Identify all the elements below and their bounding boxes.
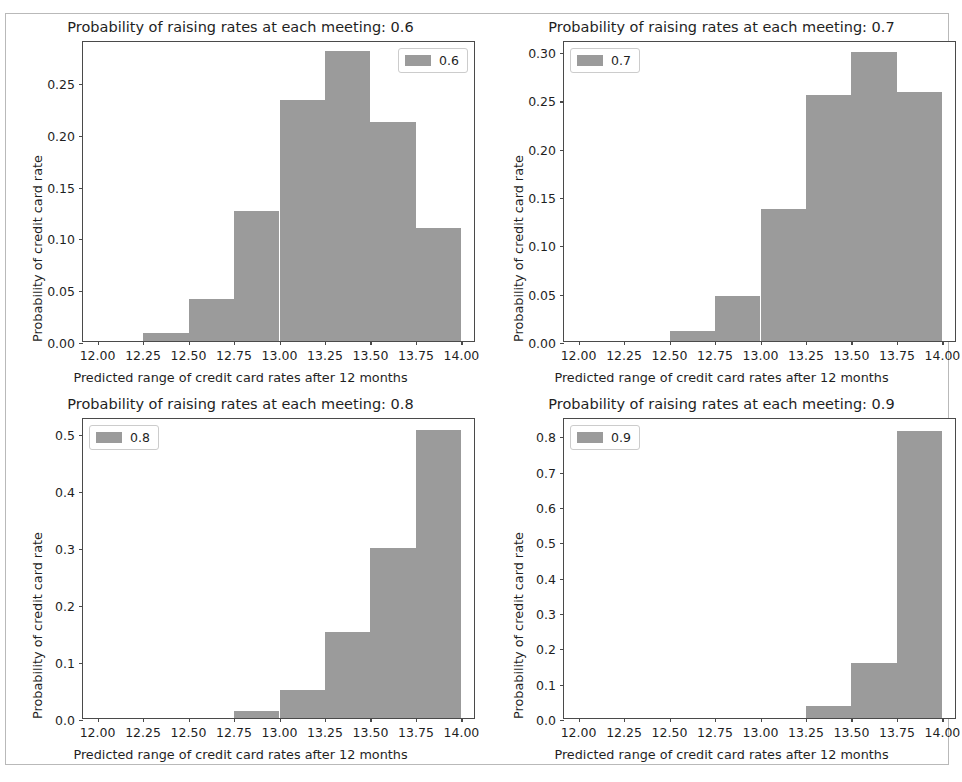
y-tick-label: 0.4 — [536, 571, 556, 586]
x-tick-mark — [851, 341, 852, 345]
y-tick-mark — [560, 246, 564, 247]
y-tick-label: 0.8 — [536, 430, 556, 445]
subplot-title: Probability of raising rates at each mee… — [0, 19, 481, 35]
x-tick-mark — [189, 341, 190, 345]
x-tick-mark — [461, 718, 462, 722]
histogram-bar — [897, 92, 942, 341]
y-tick-label: 0.1 — [536, 677, 556, 692]
x-tick-mark — [715, 341, 716, 345]
y-tick-mark — [560, 343, 564, 344]
legend-color-swatch — [405, 55, 431, 66]
y-tick-label: 0.20 — [528, 142, 556, 157]
x-axis-label: Predicted range of credit card rates aft… — [0, 747, 481, 762]
legend-label: 0.7 — [611, 53, 631, 68]
x-tick-label: 14.00 — [925, 348, 961, 363]
subplot-2: Probability of raising rates at each mee… — [481, 14, 962, 391]
x-tick-mark — [897, 718, 898, 722]
x-tick-label: 13.00 — [743, 725, 779, 740]
y-tick-mark — [560, 53, 564, 54]
x-tick-mark — [370, 341, 371, 345]
y-tick-label: 0.7 — [536, 465, 556, 480]
x-axis-label: Predicted range of credit card rates aft… — [0, 370, 481, 385]
y-tick-mark — [560, 150, 564, 151]
y-tick-label: 0.4 — [55, 484, 75, 499]
x-tick-label: 12.75 — [216, 725, 252, 740]
y-tick-label: 0.25 — [528, 94, 556, 109]
x-tick-mark — [143, 341, 144, 345]
legend-color-swatch — [577, 55, 603, 66]
y-tick-mark — [79, 549, 83, 550]
x-axis-label: Predicted range of credit card rates aft… — [481, 747, 962, 762]
x-tick-label: 13.50 — [353, 725, 389, 740]
bars-layer — [564, 419, 955, 718]
legend-label: 0.8 — [130, 430, 150, 445]
y-tick-mark — [79, 663, 83, 664]
x-tick-mark — [280, 718, 281, 722]
histogram-bar — [897, 431, 942, 718]
subplot-title: Probability of raising rates at each mee… — [481, 19, 962, 35]
y-tick-label: 0.10 — [528, 239, 556, 254]
y-tick-label: 0.15 — [528, 191, 556, 206]
x-tick-label: 12.50 — [652, 348, 688, 363]
y-tick-mark — [79, 239, 83, 240]
x-tick-mark — [416, 718, 417, 722]
histogram-bar — [670, 331, 715, 341]
histogram-bar — [234, 711, 279, 718]
y-tick-label: 0.00 — [528, 336, 556, 351]
x-tick-mark — [143, 718, 144, 722]
y-tick-label: 0.1 — [55, 655, 75, 670]
y-tick-mark — [560, 614, 564, 615]
y-tick-mark — [79, 492, 83, 493]
x-tick-mark — [189, 718, 190, 722]
x-tick-mark — [670, 718, 671, 722]
x-tick-mark — [942, 341, 943, 345]
x-tick-label: 13.50 — [353, 348, 389, 363]
x-tick-label: 12.00 — [561, 725, 597, 740]
x-tick-label: 13.50 — [834, 348, 870, 363]
x-tick-mark — [761, 718, 762, 722]
bars-layer — [83, 419, 474, 718]
x-tick-label: 12.75 — [216, 348, 252, 363]
x-tick-label: 13.25 — [307, 348, 343, 363]
y-tick-label: 0.20 — [47, 128, 75, 143]
histogram-bar — [416, 228, 461, 341]
histogram-bar — [806, 706, 851, 718]
x-tick-label: 12.75 — [697, 725, 733, 740]
y-tick-label: 0.5 — [55, 427, 75, 442]
y-tick-mark — [560, 579, 564, 580]
x-tick-label: 13.25 — [788, 348, 824, 363]
x-tick-mark — [761, 341, 762, 345]
x-tick-label: 12.25 — [125, 725, 161, 740]
x-tick-label: 12.50 — [171, 348, 207, 363]
y-tick-mark — [560, 198, 564, 199]
x-tick-mark — [416, 341, 417, 345]
histogram-bar — [416, 430, 461, 718]
x-tick-mark — [370, 718, 371, 722]
legend: 0.8 — [89, 425, 159, 450]
y-tick-label: 0.25 — [47, 76, 75, 91]
y-tick-mark — [560, 295, 564, 296]
plot-area: 0.000.050.100.150.200.2512.0012.2512.501… — [82, 41, 475, 342]
y-axis-label: Probability of credit card rate — [511, 155, 526, 342]
y-tick-mark — [560, 473, 564, 474]
x-tick-label: 13.25 — [307, 725, 343, 740]
x-tick-label: 12.50 — [652, 725, 688, 740]
plot-area: 0.000.050.100.150.200.250.3012.0012.2512… — [563, 41, 956, 342]
y-tick-label: 0.5 — [536, 536, 556, 551]
x-tick-mark — [715, 718, 716, 722]
x-tick-mark — [98, 341, 99, 345]
y-tick-label: 0.6 — [536, 501, 556, 516]
histogram-bar — [851, 663, 896, 718]
x-tick-mark — [234, 341, 235, 345]
histogram-bar — [325, 51, 370, 341]
x-tick-label: 13.00 — [262, 725, 298, 740]
subplot-3: Probability of raising rates at each mee… — [0, 391, 481, 768]
legend-color-swatch — [96, 432, 122, 443]
y-tick-mark — [560, 649, 564, 650]
x-tick-mark — [280, 341, 281, 345]
y-tick-label: 0.3 — [536, 607, 556, 622]
y-tick-mark — [79, 136, 83, 137]
y-tick-label: 0.05 — [47, 284, 75, 299]
y-axis-label: Probability of credit card rate — [30, 532, 45, 719]
y-tick-mark — [560, 437, 564, 438]
